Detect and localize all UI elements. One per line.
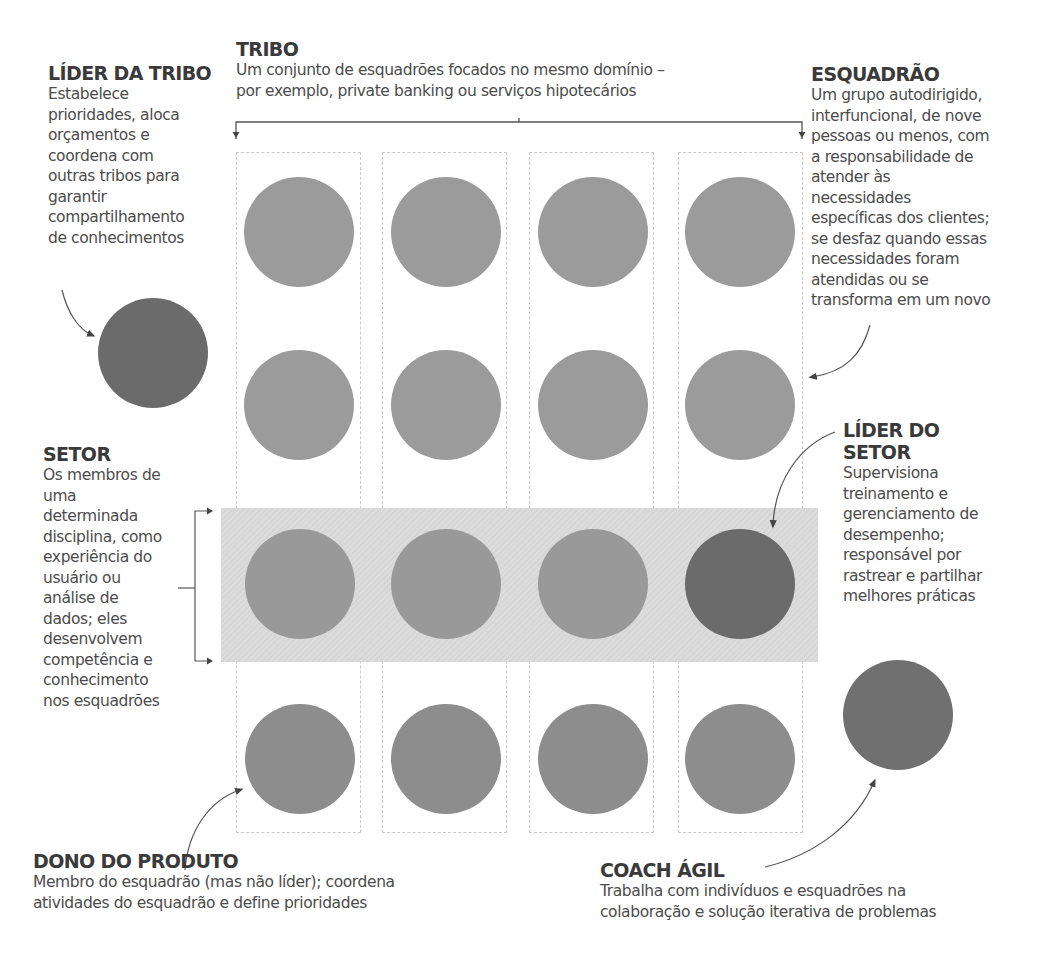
agile-coach-label: COACH ÁGIL Trabalha com indivíduos e esq… [600,859,1050,922]
squad-title: ESQUADRÃO [811,63,1051,85]
tribe-label: TRIBO Um conjunto de esquadrões focados … [236,38,796,101]
tribe-leader-label: LÍDER DA TRIBO Estabelece prioridades, a… [48,62,248,248]
product-owner-title: DONO DO PRODUTO [33,850,553,872]
squad-description: Um grupo autodirigido, interfuncional, d… [811,85,1051,311]
chapter-arrow-top-icon [207,508,213,515]
chapter-title: SETOR [43,443,203,465]
tribe-leader-description: Estabelece prioridades, aloca orçamentos… [48,84,248,248]
agile-coach-description: Trabalha com indivíduos e esquadrões na … [600,881,1050,922]
tribe-title: TRIBO [236,38,796,60]
agile-coach-title: COACH ÁGIL [600,859,1050,881]
chapter-leader-description: Supervisiona treinamento e gerenciamento… [843,463,1048,607]
product-owner-description: Membro do esquadrão (mas não líder); coo… [33,872,553,913]
product-owner-label: DONO DO PRODUTO Membro do esquadrão (mas… [33,850,553,913]
tribe-arrow-right-icon [799,132,806,138]
chapter-arrow-bottom-icon [207,658,213,665]
tribe-leader-title: LÍDER DA TRIBO [48,62,248,84]
chapter-description: Os membros de uma determinada disciplina… [43,465,203,711]
chapter-label: SETOR Os membros de uma determinada disc… [43,443,203,711]
tribe-description: Um conjunto de esquadrões focados no mes… [236,60,796,101]
squad-label: ESQUADRÃO Um grupo autodirigido, interfu… [811,63,1051,311]
chapter-leader-label: LÍDER DO SETOR Supervisiona treinamento … [843,419,1048,607]
chapter-leader-title: LÍDER DO SETOR [843,419,1048,463]
